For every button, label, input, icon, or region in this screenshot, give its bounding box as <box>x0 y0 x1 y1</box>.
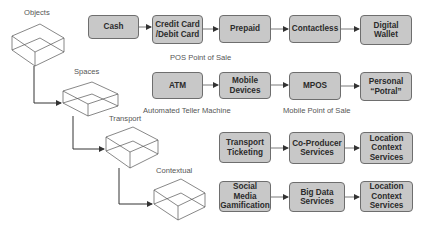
box-cash: Cash <box>88 15 139 39</box>
level-label-spaces: Spaces <box>74 67 99 76</box>
arrow-transport-to-contextual <box>119 168 152 204</box>
box-contactless: Contactless <box>289 15 341 43</box>
box-transport-ticketing: Transport Ticketing <box>219 132 271 163</box>
caption-pos: POS Point of Sale <box>170 53 231 62</box>
cube-icon-spaces <box>63 82 118 116</box>
box-social-media-gamification: Social Media Gamification <box>219 181 271 212</box>
box-big-data-services: Big Data Services <box>289 182 345 212</box>
box-location-context-services-2: Location Context Services <box>360 181 413 212</box>
box-mobile-devices: Mobile Devices <box>219 72 271 99</box>
box-prepaid: Prepaid <box>219 15 271 43</box>
box-credit-debit-card: Credit Card /Debit Card <box>152 15 203 44</box>
arrow-spaces-to-transport <box>73 116 104 149</box>
box-co-producer-services: Co-Producer Services <box>289 132 345 164</box>
box-atm: ATM <box>152 72 203 99</box>
box-mpos: MPOS <box>289 72 341 100</box>
arrow-objects-to-spaces <box>34 66 61 103</box>
cube-icon-objects <box>12 24 64 66</box>
level-label-contextual: Contextual <box>156 166 192 175</box>
cube-icon-contextual <box>154 179 205 220</box>
cube-icon-transport <box>106 127 158 168</box>
box-digital-wallet: Digital Wallet <box>360 15 412 45</box>
caption-atm: Automated Teller Machine <box>143 106 231 115</box>
diagram-canvas: Objects Spaces Transport Contextual Cash… <box>0 0 425 232</box>
level-label-transport: Transport <box>109 114 141 123</box>
box-location-context-services-1: Location Context Services <box>360 132 413 164</box>
caption-mpos: Mobile Point of Sale <box>283 106 351 115</box>
box-personal-potral: Personal “Potral” <box>360 72 412 101</box>
level-label-objects: Objects <box>24 8 50 17</box>
